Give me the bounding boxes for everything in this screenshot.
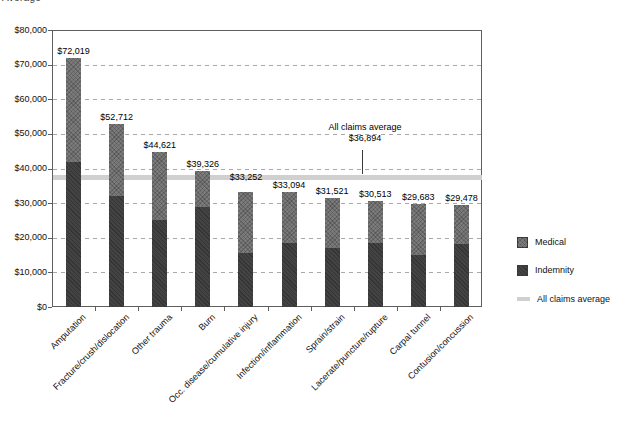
y-axis-label: $60,000: [0, 94, 47, 104]
bar-segment-indemnity: [152, 220, 167, 307]
x-axis-tick: [181, 307, 182, 311]
bar-value-label: $39,326: [171, 159, 235, 169]
y-axis-tick: [48, 99, 52, 100]
y-axis-tick: [48, 272, 52, 273]
bar-segment-indemnity: [66, 162, 81, 307]
bar-value-label: $52,712: [85, 112, 149, 122]
y-axis-label: $20,000: [0, 232, 47, 242]
legend-label-average: All claims average: [537, 294, 610, 304]
y-axis-tick: [48, 65, 52, 66]
y-axis-tick: [48, 307, 52, 308]
bar-segment-medical: [411, 204, 426, 255]
average-annotation-value: $36,894: [295, 133, 435, 144]
y-axis-label: $50,000: [0, 128, 47, 138]
x-axis-label: Lacerate/puncture/rupture: [309, 312, 389, 392]
legend-label-indemnity: Indemnity: [535, 265, 574, 275]
y-axis-label: $40,000: [0, 163, 47, 173]
bar-segment-medical: [325, 198, 340, 248]
y-axis-label: $30,000: [0, 198, 47, 208]
indemnity-swatch: [517, 265, 528, 276]
gridline: [53, 65, 482, 66]
y-axis-tick: [48, 30, 52, 31]
bar-segment-indemnity: [195, 207, 210, 307]
y-axis-label: $10,000: [0, 267, 47, 277]
bar-segment-indemnity: [238, 253, 253, 307]
bar-segment-medical: [238, 192, 253, 253]
medical-swatch: [517, 237, 528, 248]
bar-segment-medical: [152, 152, 167, 220]
x-axis-tick: [138, 307, 139, 311]
bar-segment-indemnity: [282, 243, 297, 307]
average-swatch: [517, 297, 530, 301]
y-axis-tick: [48, 238, 52, 239]
bar-segment-medical: [282, 192, 297, 243]
bar-segment-indemnity: [368, 243, 383, 307]
y-axis-label: $0: [0, 302, 47, 312]
bar-segment-indemnity: [109, 196, 124, 307]
clipped-page-title: Average: [2, 0, 302, 5]
bar-value-label: $44,621: [128, 140, 192, 150]
bar-segment-indemnity: [454, 244, 469, 307]
x-axis-tick: [397, 307, 398, 311]
legend-item-average: All claims average: [517, 293, 610, 305]
x-axis-tick: [224, 307, 225, 311]
y-axis-tick: [48, 134, 52, 135]
x-axis-tick: [268, 307, 269, 311]
bar-segment-medical: [66, 58, 81, 162]
bar-segment-medical: [195, 171, 210, 207]
x-axis-tick: [440, 307, 441, 311]
y-axis-tick: [48, 203, 52, 204]
bar-segment-medical: [368, 201, 383, 242]
clipped-page-title-text: Average: [2, 0, 302, 3]
bar-value-label: $29,478: [429, 193, 493, 203]
legend-item-medical: Medical: [517, 236, 566, 248]
gridline: [53, 99, 482, 100]
x-axis-label: Sprain/strain: [303, 312, 346, 355]
legend-item-indemnity: Indemnity: [517, 264, 574, 276]
x-axis-label: Occ. disease/cumulative injury: [167, 312, 260, 405]
y-axis-label: $70,000: [0, 59, 47, 69]
x-axis-label: Other trauma: [129, 312, 174, 357]
chart-canvas: Average $0$10,000$20,000$30,000$40,000$5…: [0, 0, 629, 426]
x-axis-label: Burn: [196, 312, 217, 333]
x-axis-tick: [354, 307, 355, 311]
bar-segment-medical: [454, 205, 469, 244]
average-annotation-label: All claims average: [295, 122, 435, 133]
average-annotation-pointer: [362, 150, 363, 174]
bar-segment-indemnity: [411, 255, 426, 307]
y-axis-tick: [48, 169, 52, 170]
x-axis-tick: [311, 307, 312, 311]
bar-value-label: $72,019: [42, 46, 106, 56]
x-axis-label: Carpal tunnel: [387, 312, 432, 357]
x-axis-label: Fracture/crush/dislocation: [51, 312, 131, 392]
x-axis-tick: [95, 307, 96, 311]
x-axis-label: Amputation: [48, 312, 87, 351]
legend-label-medical: Medical: [535, 237, 566, 247]
average-annotation: All claims average $36,894: [295, 122, 435, 144]
y-axis-label: $80,000: [0, 25, 47, 35]
bar-segment-indemnity: [325, 248, 340, 307]
bar-segment-medical: [109, 124, 124, 195]
